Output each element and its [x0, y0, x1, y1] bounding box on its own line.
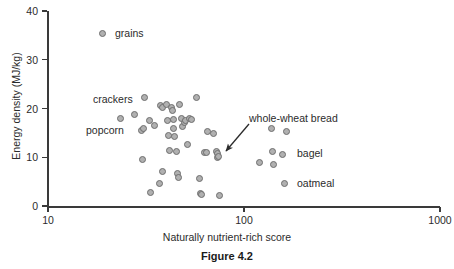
- y-tick-0: [42, 205, 47, 206]
- data-point: [166, 147, 173, 154]
- y-tick-label-40: 40: [0, 6, 38, 17]
- x-tick-label-10: 10: [42, 215, 54, 226]
- annotation-oatmeal: oatmeal: [297, 178, 334, 189]
- data-point: [176, 101, 183, 108]
- data-point: [216, 192, 223, 199]
- figure-caption: Figure 4.2: [0, 250, 454, 262]
- y-tick-label-0: 0: [0, 201, 38, 212]
- data-point: [140, 125, 147, 132]
- data-point: [198, 191, 205, 198]
- data-point: [156, 180, 163, 187]
- data-point: [184, 141, 191, 148]
- annotation-crackers: crackers: [93, 94, 133, 105]
- data-point: [210, 130, 217, 137]
- annotation-grains: grains: [115, 28, 144, 39]
- data-point: [196, 175, 203, 182]
- y-tick-30: [42, 59, 47, 60]
- data-point: [268, 125, 275, 132]
- y-tick-10: [42, 157, 47, 158]
- data-point: [283, 128, 290, 135]
- data-point: [270, 161, 277, 168]
- data-point: [171, 133, 178, 140]
- data-point: [256, 159, 263, 166]
- data-point: [269, 148, 276, 155]
- data-point: [117, 115, 124, 122]
- data-point: [188, 116, 195, 123]
- data-point: [170, 125, 177, 132]
- annotation-bagel: bagel: [297, 148, 323, 159]
- data-point: [131, 111, 138, 118]
- y-axis-title: Energy density (MJ/kg): [10, 21, 22, 191]
- figure-4-2: 101001000 010203040 Naturally nutrient-r…: [0, 0, 454, 269]
- x-tick-label-1000: 1000: [428, 215, 451, 226]
- data-point: [170, 116, 177, 123]
- data-point: [147, 189, 154, 196]
- whole-wheat-bread-arrow: [0, 0, 454, 269]
- data-point: [151, 122, 158, 129]
- data-point: [169, 107, 176, 114]
- y-tick-40: [42, 10, 47, 11]
- data-point: [173, 148, 180, 155]
- x-tick-1000: [439, 207, 440, 212]
- data-point: [99, 30, 106, 37]
- annotation-popcorn: popcorn: [86, 125, 124, 136]
- annotation-whole-wheat-bread: whole-wheat bread: [249, 113, 338, 124]
- x-axis-title: Naturally nutrient-rich score: [0, 231, 454, 243]
- x-tick-label-100: 100: [235, 215, 253, 226]
- data-point: [203, 149, 210, 156]
- data-point: [279, 151, 286, 158]
- y-axis-line: [47, 11, 49, 207]
- data-point: [175, 174, 182, 181]
- data-point: [141, 94, 148, 101]
- data-point: [193, 94, 200, 101]
- data-point: [281, 180, 288, 187]
- x-tick-10: [47, 207, 48, 212]
- x-tick-100: [243, 207, 244, 212]
- y-tick-20: [42, 108, 47, 109]
- data-point: [215, 153, 222, 160]
- data-point: [159, 168, 166, 175]
- data-point: [139, 156, 146, 163]
